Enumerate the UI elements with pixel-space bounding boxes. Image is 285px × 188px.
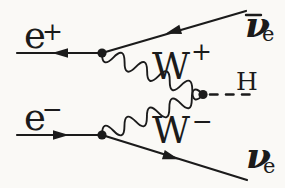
feynman-diagram: e + e − ν e ν e W + W − H [0,0,285,188]
vertex-dot-top [97,48,106,57]
antineutrino-label: ν e [245,3,274,46]
neutrino-label: ν e [246,134,275,178]
electron-arrow-icon [53,130,69,140]
w-plus-label: W + [152,37,212,88]
w-plus-symbol: W [152,45,190,88]
neutrino-arrow-icon [162,150,180,164]
positron-arrow-icon [52,48,68,58]
higgs-label: H [236,67,258,96]
vertex-dot-bottom [97,130,106,139]
feynman-diagram-canvas: e + e − ν e ν e W + W − H [0,0,285,188]
electron-charge-sign: − [42,95,63,124]
antineutrino-arrow-icon [164,25,182,39]
neutrino-subscript: e [263,154,275,178]
positron-label: e + [24,14,63,57]
w-minus-symbol: W [152,109,190,152]
antineutrino-subscript: e [262,22,274,46]
w-plus-charge-sign: + [191,37,212,66]
w-minus-label: W − [152,107,213,152]
positron-charge-sign: + [42,17,63,46]
higgs-symbol: H [236,67,258,96]
vertex-dot-higgs [198,90,207,99]
w-minus-charge-sign: − [192,107,213,136]
